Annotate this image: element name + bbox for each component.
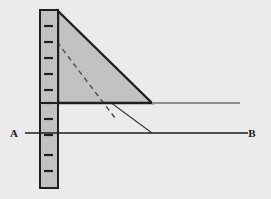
- label-b: B: [248, 127, 256, 139]
- label-a: A: [10, 127, 18, 139]
- vertical-scale-bar: [40, 10, 58, 188]
- engineering-diagram: A B: [0, 0, 271, 199]
- diagram-canvas: A B: [0, 0, 271, 199]
